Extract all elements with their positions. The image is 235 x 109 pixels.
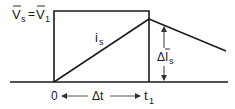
svg-text:1: 1 [149,96,154,106]
svg-text:I: I [165,50,168,64]
voltage-current-waveform: V s = V 1 i s Δ I s 0 Δt t 1 [0,0,235,109]
current-label: i s [95,30,104,47]
current-ramp-down [149,19,226,51]
svg-text:V: V [36,7,45,22]
svg-text:1: 1 [45,14,50,24]
svg-text:i: i [95,30,98,45]
current-ramp-up [54,19,149,82]
svg-text:s: s [169,56,174,66]
svg-text:t: t [144,88,148,103]
svg-text:s: s [99,37,104,47]
time-end-label: t 1 [144,88,154,106]
svg-text:s: s [21,14,26,24]
delta-t-label: Δt [92,89,104,103]
svg-text:=: = [28,7,35,21]
svg-text:V: V [12,7,21,22]
delta-current-label: Δ I s [157,49,174,66]
time-origin-label: 0 [51,89,58,103]
voltage-label: V s = V 1 [12,6,50,24]
svg-text:Δ: Δ [157,50,165,64]
